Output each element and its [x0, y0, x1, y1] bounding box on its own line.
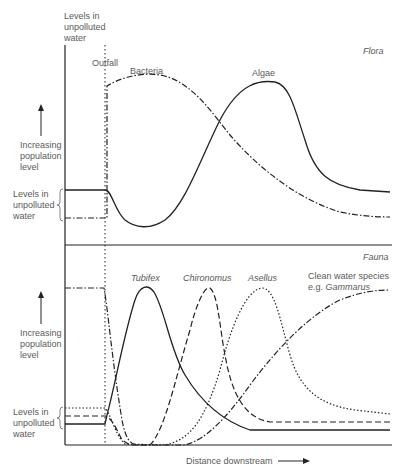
flora-top-unpolluted-label: Levels in unpolluted water [64, 11, 106, 44]
distance-arrow-icon [278, 458, 310, 464]
eg-prefix: e.g. [308, 282, 326, 292]
fauna-brace-icon [57, 407, 63, 429]
bacteria-label: Bacteria [130, 66, 163, 77]
fauna-axis-label: Increasing population level [20, 328, 62, 361]
fauna-section-label: Fauna [363, 252, 389, 263]
gammarus-name: Gammarus [326, 282, 371, 292]
gammarus-example-label: e.g. Gammarus [308, 282, 370, 293]
pollution-diagram [0, 0, 407, 475]
chironomus-label: Chironomus [183, 273, 232, 284]
algae-curve [65, 81, 390, 226]
flora-baseline-label: Levels in unpolluted water [13, 189, 55, 222]
tubifex-curve [65, 287, 390, 430]
flora-section-label: Flora [363, 46, 384, 57]
fauna-increase-arrow-icon [38, 291, 44, 324]
flora-increase-arrow-icon [38, 104, 44, 136]
flora-axis-label: Increasing population level [20, 140, 62, 173]
asellus-label: Asellus [248, 273, 277, 284]
algae-label: Algae [252, 68, 275, 79]
clean-water-species-label: Clean water species [308, 271, 389, 282]
flora-brace-icon [57, 189, 63, 221]
fauna-baseline-label: Levels in unpolluted water [13, 407, 55, 440]
tubifex-label: Tubifex [131, 273, 160, 284]
bacteria-curve [65, 74, 390, 218]
outfall-label: Outfall [92, 58, 118, 69]
x-axis-label: Distance downstream [186, 456, 273, 467]
